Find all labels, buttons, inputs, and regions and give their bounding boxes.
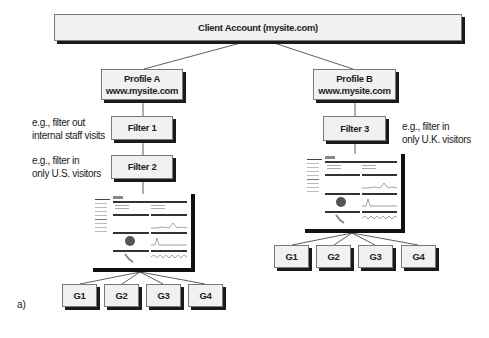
profile-b-goal-4: G4 xyxy=(401,245,436,268)
profile-a-title: Profile A xyxy=(124,73,160,85)
profile-a-box: Profile A www.mysite.com xyxy=(101,69,183,100)
filter-2-note-line1: e.g., filter in xyxy=(32,154,101,167)
goal-label: G1 xyxy=(285,251,297,263)
filter-1-box: Filter 1 xyxy=(111,116,173,140)
filter-3-label: Filter 3 xyxy=(340,123,369,135)
goal-label: G4 xyxy=(412,251,424,263)
filter-3-note: e.g., filter in only U.K. visitors xyxy=(402,120,471,146)
goal-label: G1 xyxy=(73,290,85,302)
dashboard-b-thumbnail xyxy=(305,154,405,233)
filter-3-note-line2: only U.K. visitors xyxy=(402,133,471,146)
goal-label: G3 xyxy=(157,290,169,302)
client-account-box: Client Account (mysite.com) xyxy=(54,14,462,41)
client-account-label: Client Account (mysite.com) xyxy=(198,22,318,34)
profile-b-title: Profile B xyxy=(336,73,372,85)
filter-2-note-line2: only U.S. visitors xyxy=(32,167,101,180)
dashboard-sidebar xyxy=(95,196,110,235)
filter-1-note: e.g., filter out internal staff visits xyxy=(32,116,105,142)
profile-a-site: www.mysite.com xyxy=(106,85,179,97)
profile-b-goal-1: G1 xyxy=(274,245,309,268)
profile-a-goal-1: G1 xyxy=(62,284,97,307)
profile-b-site: www.mysite.com xyxy=(318,85,391,97)
dashboard-a-thumbnail xyxy=(93,194,195,272)
profile-a-goal-4: G4 xyxy=(188,284,223,307)
goal-label: G3 xyxy=(369,251,381,263)
filter-1-label: Filter 1 xyxy=(128,122,157,134)
filter-3-note-line1: e.g., filter in xyxy=(402,120,471,133)
filter-1-note-line2: internal staff visits xyxy=(32,129,105,142)
profile-b-box: Profile B www.mysite.com xyxy=(313,69,396,100)
goal-label: G2 xyxy=(115,290,127,302)
profile-b-goal-2: G2 xyxy=(316,245,351,268)
goal-label: G4 xyxy=(199,290,211,302)
profile-hierarchy-diagram: Client Account (mysite.com) Profile A ww… xyxy=(0,0,489,338)
figure-caption: a) xyxy=(17,299,26,310)
profile-a-goal-2: G2 xyxy=(104,284,139,307)
goal-label: G2 xyxy=(327,251,339,263)
filter-3-box: Filter 3 xyxy=(323,116,386,141)
dashboard-sidebar xyxy=(307,156,322,195)
filter-2-note: e.g., filter in only U.S. visitors xyxy=(32,154,101,180)
filter-1-note-line1: e.g., filter out xyxy=(32,116,105,129)
profile-a-goal-3: G3 xyxy=(146,284,181,307)
profile-b-goal-3: G3 xyxy=(358,245,393,268)
filter-2-label: Filter 2 xyxy=(128,161,157,173)
filter-2-box: Filter 2 xyxy=(111,155,173,179)
